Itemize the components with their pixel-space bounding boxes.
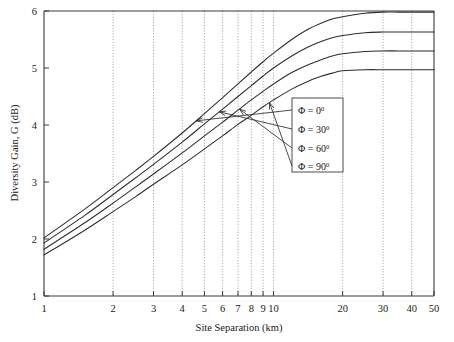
y-tick-label-1: 1 — [32, 291, 37, 302]
legend-label-text-3: Φ = 90 — [298, 161, 326, 172]
x-tickmarks-group — [44, 291, 434, 296]
x-tick-label-40: 40 — [407, 303, 418, 314]
annotation-leader-0 — [196, 110, 292, 121]
legend-label-1: Φ = 300 — [298, 124, 330, 135]
legend-label-text-1: Φ = 30 — [298, 124, 326, 135]
x-tick-label-4: 4 — [180, 303, 186, 314]
x-axis-title: Site Separation (km) — [196, 322, 283, 334]
plot-frame — [44, 11, 434, 296]
curve-series-1 — [44, 32, 434, 243]
x-tick-label-2: 2 — [110, 303, 115, 314]
legend-label-2: Φ = 600 — [298, 143, 330, 154]
x-tick-label-30: 30 — [378, 303, 389, 314]
x-tick-label-1: 1 — [41, 303, 46, 314]
x-tick-labels-group: 1234567891020304050 — [41, 303, 439, 314]
y-tick-label-3: 3 — [32, 177, 37, 188]
y-tick-label-4: 4 — [32, 120, 38, 131]
data-curves-group — [44, 12, 434, 255]
curve-series-0 — [44, 12, 434, 238]
legend-label-text-0: Φ = 0 — [298, 105, 321, 116]
y-tick-labels-group: 123456 — [32, 6, 38, 302]
curve-series-3 — [44, 70, 434, 255]
y-tick-label-6: 6 — [32, 6, 37, 17]
x-tick-label-20: 20 — [337, 303, 348, 314]
legend-label-3: Φ = 900 — [298, 161, 330, 172]
legend-label-text-2: Φ = 60 — [298, 143, 326, 154]
x-tick-label-7: 7 — [235, 303, 240, 314]
diversity-gain-plot: Φ = 00Φ = 300Φ = 600Φ = 900 123456789102… — [0, 0, 454, 342]
annotation-leaders-group — [196, 103, 292, 166]
chart-figure: Φ = 00Φ = 300Φ = 600Φ = 900 123456789102… — [0, 0, 454, 342]
y-axis-title: Diversity Gain, G (dB) — [9, 104, 21, 201]
x-tick-label-3: 3 — [151, 303, 156, 314]
annotation-leader-2 — [239, 109, 292, 148]
legend-label-0: Φ = 00 — [298, 105, 325, 116]
y-tick-label-2: 2 — [32, 234, 37, 245]
x-tick-label-9: 9 — [260, 303, 265, 314]
y-tick-label-5: 5 — [32, 63, 37, 74]
curve-series-2 — [44, 51, 434, 249]
x-tick-label-6: 6 — [220, 303, 225, 314]
x-tick-label-50: 50 — [429, 303, 440, 314]
x-tick-label-8: 8 — [249, 303, 254, 314]
x-tick-label-5: 5 — [202, 303, 207, 314]
x-tick-label-10: 10 — [268, 303, 279, 314]
